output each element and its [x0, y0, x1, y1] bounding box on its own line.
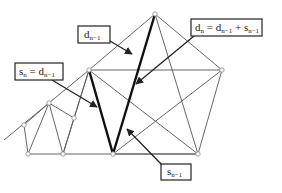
- edge-s-n: [89, 70, 113, 154]
- node-small-top: [47, 101, 51, 105]
- node-big-ur: [220, 68, 224, 72]
- node-big-br: [196, 152, 200, 156]
- arrow-s-n: [52, 80, 97, 107]
- arrow-d-n: [136, 36, 194, 84]
- label-s-n-eq: sn = dn−1: [15, 63, 63, 80]
- label-d-n-eq2-main: + s: [232, 21, 248, 33]
- pentagon-diagram: dn−1 sn = dn−1 dn = dn−1 + sn−1 sn−1: [0, 0, 282, 193]
- edge-d-n: [113, 14, 155, 154]
- label-d-n-eq1-main: = d: [204, 21, 222, 33]
- label-s-prev-sub: n−1: [171, 171, 182, 179]
- label-s-n-eq-sub: n−1: [44, 71, 55, 79]
- label-d-prev: dn−1: [78, 26, 110, 43]
- label-s-prev: sn−1: [161, 164, 191, 180]
- label-d-n-eq: dn = dn−1 + sn−1: [191, 19, 262, 36]
- label-s-n-eq-main: = d: [27, 65, 45, 77]
- node-small-left: [22, 123, 26, 127]
- node-small-bl: [26, 152, 30, 156]
- label-d-n-eq2-sub: n−1: [248, 27, 259, 35]
- label-d-prev-sub: n−1: [90, 34, 101, 42]
- node-big-bl: [111, 152, 115, 156]
- node-small-bm: [61, 152, 65, 156]
- node-apex: [153, 12, 157, 16]
- node-big-ul: [87, 68, 91, 72]
- node-small-right: [72, 116, 76, 120]
- label-d-n-eq1-sub: n−1: [221, 27, 232, 35]
- small-pentagon-lines: [24, 70, 198, 154]
- arrow-s-prev: [127, 129, 163, 166]
